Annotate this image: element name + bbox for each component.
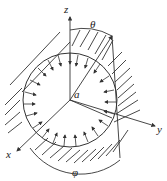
y-axis-label: y — [156, 123, 162, 135]
x-axis-label: x — [5, 148, 11, 160]
x-axis — [17, 100, 70, 151]
radius-a-label: a — [74, 88, 80, 100]
y-axis — [70, 100, 155, 126]
sphere-pressure-diagram: z θ a y x φ — [0, 0, 167, 181]
phi-label: φ — [72, 166, 78, 178]
theta-label: θ — [90, 18, 96, 30]
z-axis-label: z — [63, 3, 69, 15]
